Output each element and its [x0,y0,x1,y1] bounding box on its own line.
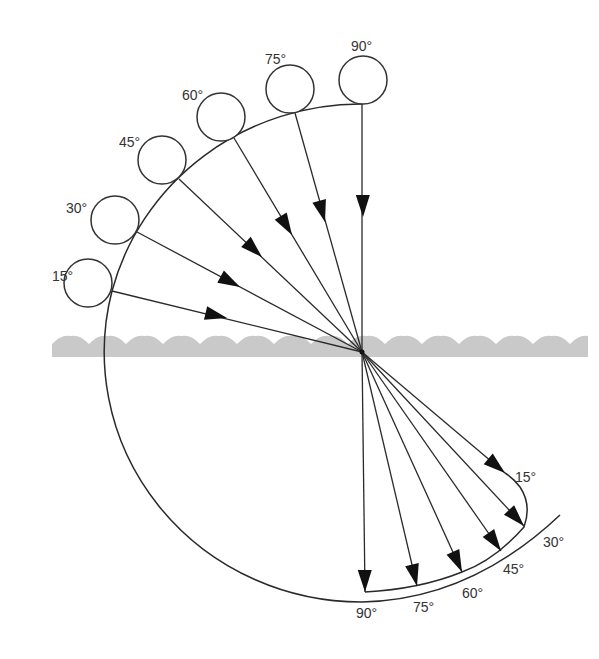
ray-line [362,352,524,526]
arrowhead-icon [447,549,462,572]
convergence-point [360,350,365,355]
refracted-ray [362,352,462,572]
incident-ray [197,93,362,352]
refracted-angle-label: 30° [543,534,564,550]
refracted-angle-label: 60° [462,585,483,601]
incident-angle-label: 30° [66,200,87,216]
incident-rays [64,56,387,352]
arrowhead-icon [275,213,292,235]
ball-icon [91,196,139,244]
arrowhead-icon [217,270,240,287]
refracted-ray [362,352,419,586]
angle-labels: 15°30°45°60°75°90°15°30°45°60°75°90° [52,38,564,621]
ball-icon [339,56,387,104]
refracted-angle-label: 75° [413,599,434,615]
ray-line [295,113,362,352]
refracted-ray [362,352,524,526]
ray-line [179,179,362,352]
ball-icon [197,93,245,141]
arrowhead-icon [358,570,372,592]
arrowhead-icon [484,453,505,473]
incident-angle-label: 15° [52,268,73,284]
arrowhead-icon [204,306,227,320]
ball-icon [266,65,314,113]
incident-angle-label: 45° [119,134,140,150]
arrowhead-icon [312,199,325,222]
water-band [52,330,588,358]
refracted-angle-label: 15° [515,469,536,485]
arrowhead-icon [483,529,501,551]
ball-icon [138,136,186,184]
water-surface [52,330,588,358]
refraction-diagram: 15°30°45°60°75°90°15°30°45°60°75°90° [0,0,599,659]
refracted-rays [358,350,524,593]
refracted-angle-label: 45° [503,561,524,577]
ray-line [362,352,462,572]
incident-ray [138,136,362,352]
incident-ray [339,56,387,352]
incident-angle-label: 75° [265,51,286,67]
ray-line [362,352,417,586]
incident-angle-label: 60° [182,87,203,103]
arrowhead-icon [356,195,370,217]
incident-angle-label: 90° [351,38,372,54]
ray-line [362,352,365,592]
incident-ray [91,196,362,352]
arrowhead-icon [405,563,419,586]
refracted-ray [358,352,372,592]
refracted-angle-label: 90° [356,605,377,621]
